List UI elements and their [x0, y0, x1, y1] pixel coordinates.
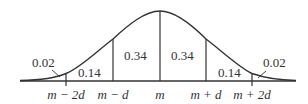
axis-label-m-plus-d: m + d: [190, 87, 222, 102]
label-left-outer: 0.14: [78, 65, 101, 80]
label-left-inner: 0.34: [124, 48, 147, 63]
label-right-tail: 0.02: [263, 55, 286, 70]
label-right-inner: 0.34: [171, 48, 194, 63]
label-right-outer: 0.14: [218, 65, 241, 80]
axis-label-m-minus-2d: m − 2d: [47, 87, 85, 102]
axis-label-m-plus-2d: m + 2d: [233, 87, 271, 102]
axis-label-m-minus-d: m − d: [97, 87, 129, 102]
left-tail-pointer: [52, 70, 60, 77]
bell-curve: [20, 11, 296, 81]
normal-curve-diagram: 0.02 0.14 0.34 0.34 0.14 0.02 m − 2d m −…: [0, 0, 308, 104]
axis-label-m: m: [155, 87, 164, 102]
label-left-tail: 0.02: [32, 55, 55, 70]
